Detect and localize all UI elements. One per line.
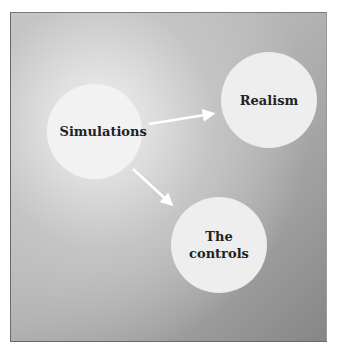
node-controls: The controls — [171, 197, 267, 293]
node-realism-label: Realism — [240, 92, 298, 109]
node-simulations: Simulations — [47, 84, 142, 179]
node-controls-label: The controls — [184, 228, 254, 262]
node-realism: Realism — [221, 52, 317, 148]
node-simulations-label: Simulations — [60, 123, 130, 140]
